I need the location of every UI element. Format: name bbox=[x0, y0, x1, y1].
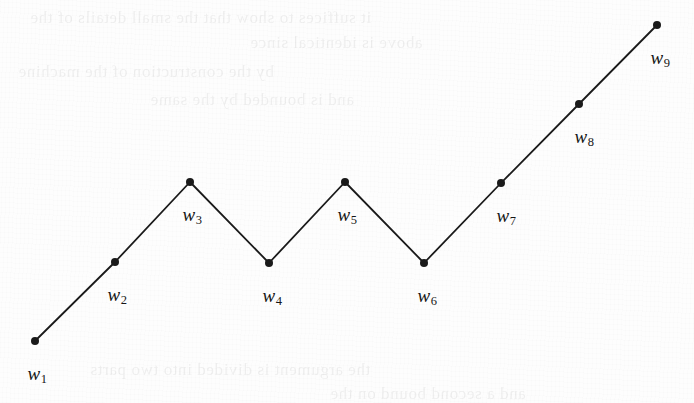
vertex-label-w2: w2 bbox=[108, 285, 127, 304]
vertex-label-w3: w3 bbox=[183, 205, 202, 224]
figure-page: it suffices to show that the small detai… bbox=[0, 0, 694, 403]
vertex-dot-w6 bbox=[420, 259, 428, 267]
label-subscript: 7 bbox=[510, 214, 516, 228]
label-subscript: 4 bbox=[276, 294, 282, 308]
zigzag-line-chart bbox=[0, 0, 694, 403]
vertex-label-w8: w8 bbox=[575, 127, 594, 146]
vertex-dot-w7 bbox=[497, 179, 505, 187]
label-base: w bbox=[651, 47, 664, 68]
label-base: w bbox=[183, 204, 196, 225]
vertex-label-w1: w1 bbox=[28, 364, 47, 383]
label-subscript: 8 bbox=[588, 135, 594, 149]
vertex-label-w9: w9 bbox=[651, 48, 670, 67]
label-base: w bbox=[28, 363, 41, 384]
vertex-dot-w1 bbox=[31, 337, 39, 345]
vertex-label-w4: w4 bbox=[263, 286, 282, 305]
label-base: w bbox=[108, 284, 121, 305]
label-base: w bbox=[418, 285, 431, 306]
label-subscript: 1 bbox=[41, 372, 47, 386]
label-subscript: 9 bbox=[664, 56, 670, 70]
label-subscript: 6 bbox=[431, 294, 437, 308]
vertex-label-w5: w5 bbox=[338, 205, 357, 224]
label-subscript: 3 bbox=[196, 213, 202, 227]
vertex-dot-w9 bbox=[653, 21, 661, 29]
label-base: w bbox=[497, 205, 510, 226]
vertex-dot-w3 bbox=[186, 178, 194, 186]
vertex-dot-w5 bbox=[341, 178, 349, 186]
vertex-dot-w4 bbox=[265, 259, 273, 267]
vertex-label-w6: w6 bbox=[418, 286, 437, 305]
vertex-dot-w2 bbox=[111, 258, 119, 266]
vertex-label-w7: w7 bbox=[497, 206, 516, 225]
label-base: w bbox=[575, 126, 588, 147]
label-subscript: 5 bbox=[351, 213, 357, 227]
label-base: w bbox=[338, 204, 351, 225]
vertex-dot-w8 bbox=[575, 100, 583, 108]
label-base: w bbox=[263, 285, 276, 306]
label-subscript: 2 bbox=[121, 293, 127, 307]
